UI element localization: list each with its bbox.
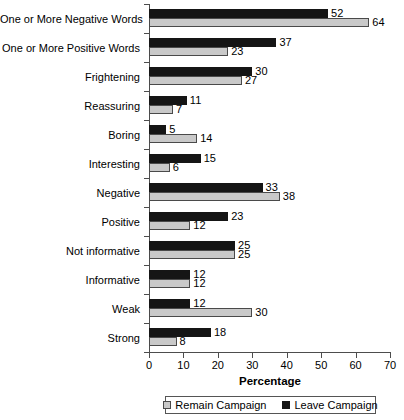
chart-legend: Remain Campaign Leave Campaign bbox=[165, 396, 376, 414]
bar-value-label: 25 bbox=[238, 249, 250, 260]
bar-value-label: 23 bbox=[231, 211, 243, 222]
bar-value-label: 7 bbox=[176, 104, 182, 115]
y-axis-tick bbox=[144, 265, 149, 266]
bar-leave bbox=[149, 241, 235, 250]
bar-remain bbox=[149, 192, 280, 201]
bar-value-label: 15 bbox=[204, 153, 216, 164]
bar-chart: One or More Negative WordsOne or More Po… bbox=[0, 0, 404, 420]
x-axis-tick bbox=[149, 353, 150, 358]
bar-remain bbox=[149, 250, 235, 259]
y-axis-tick bbox=[144, 62, 149, 63]
bar-value-label: 37 bbox=[279, 37, 291, 48]
bar-leave bbox=[149, 38, 276, 47]
y-axis-tick bbox=[144, 91, 149, 92]
bar-value-label: 11 bbox=[190, 95, 201, 106]
bar-remain bbox=[149, 163, 170, 172]
bar-remain bbox=[149, 221, 190, 230]
bar-remain bbox=[149, 337, 177, 346]
y-axis-tick bbox=[144, 294, 149, 295]
bar-value-label: 38 bbox=[283, 191, 295, 202]
bar-value-label: 64 bbox=[372, 17, 384, 28]
bar-leave bbox=[149, 9, 328, 18]
plot-area: One or More Negative WordsOne or More Po… bbox=[0, 0, 404, 360]
category-label: Informative bbox=[0, 274, 140, 286]
category-label: Strong bbox=[0, 332, 140, 344]
category-label: Not informative bbox=[0, 245, 140, 257]
category-axis-labels: One or More Negative WordsOne or More Po… bbox=[0, 4, 145, 352]
bar-remain bbox=[149, 308, 252, 317]
x-axis-tick bbox=[321, 353, 322, 358]
legend-label-remain: Remain Campaign bbox=[175, 399, 266, 411]
bar-leave bbox=[149, 299, 190, 308]
bar-value-label: 12 bbox=[193, 278, 205, 289]
category-label: Positive bbox=[0, 216, 140, 228]
category-label: Interesting bbox=[0, 158, 140, 170]
x-axis-tick bbox=[356, 353, 357, 358]
y-axis-tick bbox=[144, 323, 149, 324]
x-axis-tick bbox=[183, 353, 184, 358]
bar-remain bbox=[149, 279, 190, 288]
bar-remain bbox=[149, 18, 369, 27]
legend-item-leave-campaign: Leave Campaign bbox=[282, 399, 377, 411]
x-axis-tick bbox=[252, 353, 253, 358]
category-label: Frightening bbox=[0, 71, 140, 83]
y-axis-tick bbox=[144, 149, 149, 150]
bar-leave bbox=[149, 67, 252, 76]
bar-leave bbox=[149, 125, 166, 134]
legend-label-leave: Leave Campaign bbox=[294, 399, 377, 411]
category-label: One or More Negative Words bbox=[0, 13, 140, 25]
bar-remain bbox=[149, 105, 173, 114]
y-axis-tick bbox=[144, 33, 149, 34]
bar-leave bbox=[149, 270, 190, 279]
category-label: Weak bbox=[0, 303, 140, 315]
x-axis-tick bbox=[287, 353, 288, 358]
bar-value-label: 30 bbox=[255, 307, 267, 318]
bar-value-label: 14 bbox=[200, 133, 212, 144]
bar-value-label: 6 bbox=[173, 162, 179, 173]
x-axis-tick bbox=[390, 353, 391, 358]
bar-remain bbox=[149, 134, 197, 143]
category-label: Negative bbox=[0, 187, 140, 199]
legend-swatch-remain-icon bbox=[163, 401, 171, 409]
bar-value-label: 12 bbox=[193, 220, 205, 231]
category-label: One or More Positive Words bbox=[0, 42, 140, 54]
bar-value-label: 18 bbox=[214, 327, 226, 338]
y-axis-tick bbox=[144, 236, 149, 237]
bar-value-label: 23 bbox=[231, 46, 243, 57]
y-axis-tick bbox=[144, 120, 149, 121]
x-axis-tick-label: 70 bbox=[370, 359, 404, 372]
bar-leave bbox=[149, 212, 228, 221]
category-label: Reassuring bbox=[0, 100, 140, 112]
bar-remain bbox=[149, 47, 228, 56]
y-axis-tick bbox=[144, 207, 149, 208]
legend-item-remain-campaign: Remain Campaign bbox=[163, 399, 266, 411]
category-label: Boring bbox=[0, 129, 140, 141]
bar-value-label: 27 bbox=[245, 75, 257, 86]
y-axis-tick bbox=[144, 178, 149, 179]
bar-value-label: 8 bbox=[180, 336, 186, 347]
x-axis-title: Percentage bbox=[149, 375, 391, 387]
bar-remain bbox=[149, 76, 242, 85]
legend-swatch-leave-icon bbox=[282, 401, 290, 409]
bar-leave bbox=[149, 183, 263, 192]
x-axis-tick bbox=[218, 353, 219, 358]
y-axis-tick bbox=[144, 4, 149, 5]
